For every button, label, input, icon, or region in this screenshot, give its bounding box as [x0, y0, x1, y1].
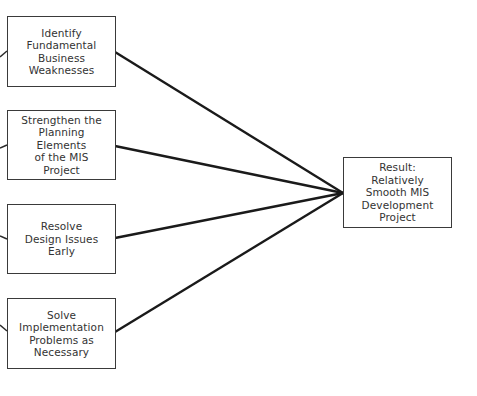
box-label: Resolve Design Issues Early [25, 220, 99, 258]
box-label: Strengthen the Planning Elements of the … [21, 114, 102, 177]
box-solve-implementation: Solve Implementation Problems as Necessa… [7, 298, 116, 369]
box-identify-weaknesses: Identify Fundamental Business Weaknesses [7, 16, 116, 87]
result-label: Result: Relatively Smooth MIS Developmen… [362, 161, 434, 224]
incoming-stub-1 [0, 51, 7, 57]
connector-resolve-to-result [115, 193, 343, 238]
connector-identify-to-result [115, 52, 343, 193]
box-strengthen-planning: Strengthen the Planning Elements of the … [7, 110, 116, 180]
incoming-stub-4 [0, 325, 7, 331]
incoming-stub-2 [0, 145, 7, 148]
box-label: Solve Implementation Problems as Necessa… [19, 309, 104, 359]
box-label: Identify Fundamental Business Weaknesses [27, 27, 97, 77]
box-resolve-design-issues: Resolve Design Issues Early [7, 204, 116, 274]
box-result: Result: Relatively Smooth MIS Developmen… [343, 157, 452, 228]
incoming-stub-3 [0, 236, 7, 239]
connector-solve-to-result [115, 193, 343, 332]
connector-strengthen-to-result [115, 146, 343, 193]
